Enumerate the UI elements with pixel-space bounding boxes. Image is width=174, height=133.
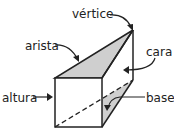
vertex-label: vértice [72, 8, 113, 20]
prism-diagram: vértice arista cara altura base [0, 0, 174, 133]
base-label: base [146, 92, 174, 104]
height-label: altura [2, 92, 37, 104]
front-face [55, 78, 102, 127]
top-face [55, 30, 133, 78]
face-arrow-icon [126, 58, 155, 70]
edge-label: arista [25, 40, 59, 52]
face-label: cara [146, 46, 172, 58]
